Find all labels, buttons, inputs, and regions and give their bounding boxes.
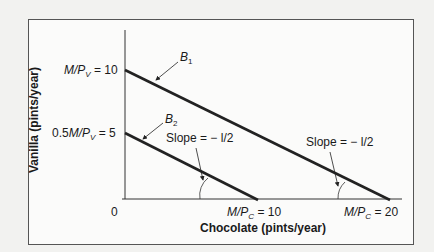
y-tick-label-5: 0.5M/PV = 5: [52, 126, 116, 142]
x20-pre: M/P: [344, 205, 365, 219]
b1-text: B: [180, 50, 188, 64]
angle-arc-b2: [200, 178, 208, 199]
y5-num: 0.5: [52, 126, 69, 140]
x-tick-label-10: M/PC = 10: [227, 205, 281, 221]
x-axis-title: Chocolate (pints/year): [200, 221, 326, 235]
angle-arc-b1: [338, 182, 345, 199]
b2-arrow: [143, 123, 163, 139]
b1-sub: 1: [188, 57, 192, 66]
slope-arrow-b2: [196, 148, 203, 180]
slope-label-b2: Slope = − l/2: [166, 131, 233, 145]
x10-post: = 10: [254, 205, 281, 219]
y-tick-label-10: M/PV = 10: [64, 63, 118, 79]
x-tick-label-20: M/PC = 20: [344, 205, 398, 221]
b2-label: B2: [165, 112, 177, 128]
b1-label: B1: [180, 50, 192, 66]
y10-post: = 10: [91, 63, 118, 77]
x20-post: = 20: [371, 205, 398, 219]
y-axis-title: Vanilla (pints/year): [27, 67, 41, 173]
b1-arrow: [156, 62, 178, 80]
origin-label: 0: [111, 205, 118, 219]
y5-pre: M/P: [69, 126, 90, 140]
x10-pre: M/P: [227, 205, 248, 219]
slope-label-b1: Slope = − l/2: [306, 135, 373, 149]
y10-pre: M/P: [64, 63, 85, 77]
slope-arrow-b1: [330, 152, 338, 186]
y5-post: = 5: [95, 126, 115, 140]
b2-sub: 2: [173, 119, 177, 128]
b2-text: B: [165, 112, 173, 126]
